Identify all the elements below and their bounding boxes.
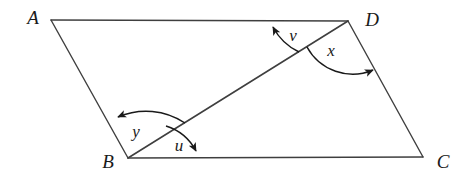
angle-label-x: x bbox=[326, 41, 335, 60]
angle-label-y: y bbox=[130, 122, 140, 141]
vertex-label-A: A bbox=[25, 7, 39, 28]
vertex-label-D: D bbox=[364, 9, 379, 30]
edge-AD bbox=[51, 20, 348, 21]
angle-label-v: v bbox=[289, 26, 297, 45]
geometry-figure: A D B C v x y u bbox=[0, 0, 462, 183]
figure-canvas: A D B C v x y u bbox=[0, 0, 462, 183]
vertex-label-C: C bbox=[437, 151, 450, 172]
angle-label-u: u bbox=[175, 136, 184, 155]
angle-arc-y bbox=[118, 111, 185, 123]
diagonal-BD bbox=[128, 21, 348, 158]
edge-BC bbox=[128, 157, 423, 158]
edge-DC bbox=[348, 21, 423, 157]
vertex-label-B: B bbox=[102, 151, 114, 172]
angle-arc-x bbox=[307, 47, 373, 74]
parallelogram-outline bbox=[51, 20, 423, 158]
edge-AB bbox=[51, 20, 128, 158]
